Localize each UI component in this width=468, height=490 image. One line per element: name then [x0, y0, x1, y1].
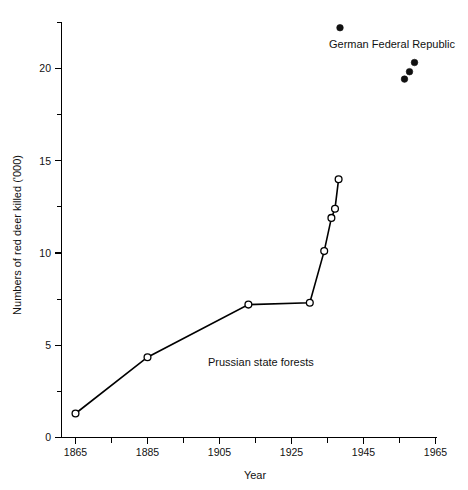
y-axis-major-ticks	[55, 69, 62, 438]
prussian-point-1913	[245, 301, 252, 308]
prussian-point-1938	[335, 176, 342, 183]
y-axis-title: Numbers of red deer killed ('000)	[11, 155, 23, 315]
series-german-federal-republic: German Federal Republic	[329, 24, 455, 82]
x-tick-label-1945: 1945	[352, 446, 376, 458]
prussian-point-1885	[144, 354, 151, 361]
prussian-series-line	[76, 179, 339, 413]
x-tick-label-1905: 1905	[208, 446, 232, 458]
x-tick-label-1885: 1885	[136, 446, 160, 458]
x-axis-title: Year	[244, 469, 267, 481]
y-axis-minor-ticks	[57, 22, 62, 391]
gfr-point-c	[406, 68, 413, 75]
y-tick-label-5: 5	[45, 339, 51, 351]
prussian-point-1936	[328, 215, 335, 222]
line-chart-canvas: 0 5 10 15 20	[0, 0, 468, 490]
gfr-point-b	[401, 76, 408, 83]
prussian-point-1937	[332, 205, 339, 212]
y-tick-label-20: 20	[39, 62, 51, 74]
series-prussian-state-forests: Prussian state forests	[72, 176, 342, 417]
prussian-point-1930	[306, 299, 313, 306]
x-tick-label-1925: 1925	[280, 446, 304, 458]
y-axis-tick-labels: 0 5 10 15 20	[39, 62, 51, 443]
y-tick-label-15: 15	[39, 155, 51, 167]
x-axis-minor-ticks	[112, 438, 400, 443]
y-tick-label-0: 0	[45, 431, 51, 443]
x-tick-label-1865: 1865	[64, 446, 88, 458]
gfr-point-a	[337, 24, 344, 31]
y-tick-label-10: 10	[39, 247, 51, 259]
gfr-point-d	[411, 59, 418, 66]
x-tick-label-1965: 1965	[424, 446, 448, 458]
x-axis-tick-labels: 1865 1885 1905 1925 1945 1965	[64, 446, 448, 458]
prussian-point-1934	[321, 248, 328, 255]
chart-figure: 0 5 10 15 20	[0, 0, 468, 490]
prussian-series-annotation: Prussian state forests	[208, 356, 314, 368]
gfr-series-annotation: German Federal Republic	[329, 38, 455, 50]
prussian-point-1865	[72, 410, 79, 417]
